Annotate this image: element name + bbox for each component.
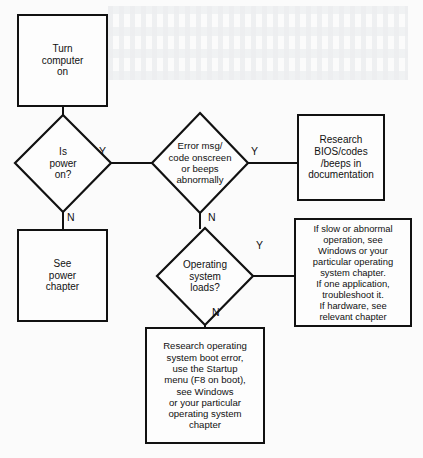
node-slow-or-abnormal-operation: If slow or abnormal operation, see Windo…: [294, 218, 412, 327]
node-error-msg-or-beeps: Error msg/ code onscreen or beeps abnorm…: [152, 113, 248, 213]
branch-label-power-yes: Y: [99, 145, 106, 157]
node-error-msg-or-beeps-label: Error msg/ code onscreen or beeps abnorm…: [152, 140, 248, 185]
flowchart-canvas: Turn computer on See power chapter Resea…: [0, 0, 423, 458]
branch-label-error-no: N: [208, 211, 216, 223]
node-operating-system-loads: Operating system loads?: [157, 228, 253, 325]
branch-label-os-no: N: [212, 306, 220, 318]
node-operating-system-loads-label: Operating system loads?: [183, 259, 227, 294]
node-turn-computer-on: Turn computer on: [17, 14, 108, 107]
node-is-power-on-label: Is power on?: [49, 146, 76, 181]
node-is-power-on: Is power on?: [15, 115, 111, 212]
node-see-power-chapter: See power chapter: [17, 229, 108, 322]
branch-label-os-yes: Y: [256, 239, 263, 251]
node-research-os-boot-error: Research operating system boot error, us…: [145, 327, 265, 444]
node-research-bios: Research BIOS/codes /beeps in documentat…: [297, 114, 385, 201]
branch-label-error-yes: Y: [251, 145, 258, 157]
branch-label-power-no: N: [67, 211, 75, 223]
